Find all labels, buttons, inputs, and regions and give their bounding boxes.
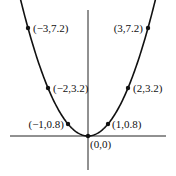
data-point: [146, 26, 150, 30]
data-point: [106, 122, 110, 126]
point-label: (−2,3.2): [53, 82, 89, 95]
data-point: [46, 86, 50, 90]
point-label: (−1,0.8): [28, 118, 64, 131]
point-label: (3,7.2): [114, 22, 144, 35]
point-label: (1,0.8): [112, 118, 142, 131]
data-point: [126, 86, 130, 90]
data-point: [66, 122, 70, 126]
point-label: (−3,7.2): [33, 22, 69, 35]
point-label: (2,3.2): [133, 82, 163, 95]
data-point: [26, 26, 30, 30]
point-label: (0,0): [90, 138, 111, 151]
parabola-chart: (−3,7.2)(−2,3.2)(−1,0.8)(0,0)(1,0.8)(2,3…: [0, 0, 176, 176]
